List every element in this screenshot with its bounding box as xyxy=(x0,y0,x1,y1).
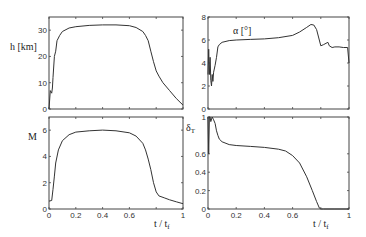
y-tick-label: 2 xyxy=(43,179,48,188)
y-tick-label: 0.4 xyxy=(195,168,207,177)
y-tick-label: 10 xyxy=(38,79,47,88)
ylabel-altitude: h [km] xyxy=(10,41,37,52)
y-tick-label: 0 xyxy=(43,105,48,114)
data-line-alpha xyxy=(208,25,349,87)
y-tick-label: 30 xyxy=(38,26,47,35)
x-tick-label: 0.6 xyxy=(124,211,136,220)
data-line-delta_T xyxy=(208,117,349,209)
x-tick-label: 0 xyxy=(206,211,211,220)
xlabel-left: t / tf xyxy=(154,218,170,231)
y-tick-label: 0.2 xyxy=(195,187,207,196)
x-tick-label: 1 xyxy=(181,211,186,220)
ylabel-mach: M xyxy=(28,131,37,142)
y-tick-label: 8 xyxy=(202,13,207,22)
x-tick-label: 0.6 xyxy=(287,211,299,220)
figure: 0102030 02468 00.20.40.610246 00.20.40.6… xyxy=(0,0,366,237)
plot-throttle: 00.20.40.6100.20.40.61 xyxy=(195,113,352,220)
y-tick-label: 0.6 xyxy=(195,150,207,159)
axes-box xyxy=(208,117,349,209)
y-tick-label: 2 xyxy=(202,82,207,91)
data-line-M xyxy=(49,130,183,204)
ylabel-throttle: δT xyxy=(186,122,196,135)
x-tick-label: 0 xyxy=(47,211,52,220)
xlabel-right: t / tf xyxy=(313,218,329,231)
ylabel-angle-of-attack: α [°] xyxy=(233,25,251,36)
x-tick-label: 0.2 xyxy=(231,211,243,220)
plot-altitude: 0102030 xyxy=(38,17,183,114)
plot-mach-number: 00.20.40.610246 xyxy=(43,117,186,220)
y-tick-label: 0 xyxy=(202,205,207,214)
axes-box xyxy=(208,17,349,109)
x-tick-label: 1 xyxy=(347,211,352,220)
x-tick-label: 0.2 xyxy=(70,211,82,220)
y-tick-label: 4 xyxy=(43,152,48,161)
x-tick-label: 0.4 xyxy=(97,211,109,220)
y-tick-label: 6 xyxy=(43,126,48,135)
y-tick-label: 20 xyxy=(38,52,47,61)
y-tick-label: 4 xyxy=(202,59,207,68)
y-tick-label: 0 xyxy=(43,205,48,214)
data-line-h xyxy=(49,25,183,109)
x-tick-label: 0.4 xyxy=(259,211,271,220)
y-tick-label: 1 xyxy=(202,113,207,122)
plot-angle-of-attack: 02468 xyxy=(202,13,349,114)
axes-box xyxy=(49,17,183,109)
y-tick-label: 6 xyxy=(202,36,207,45)
